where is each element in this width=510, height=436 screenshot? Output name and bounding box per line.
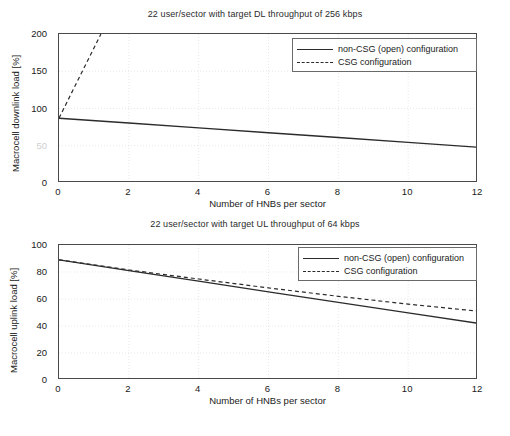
- x-tick-label: 2: [125, 186, 130, 197]
- legend-line-solid-icon: [303, 253, 339, 262]
- figure-two-panel-chart: 22 user/sector with target DL throughput…: [0, 0, 510, 436]
- y-tick-label: 150: [31, 65, 52, 76]
- x-tick-label: 0: [55, 186, 60, 197]
- x-tick-label: 4: [195, 186, 200, 197]
- x-tick-label: 12: [472, 383, 483, 394]
- x-tick-label: 0: [55, 383, 60, 394]
- chart-title-downlink: 22 user/sector with target DL throughput…: [0, 9, 510, 19]
- panel-downlink: 22 user/sector with target DL throughput…: [0, 0, 510, 218]
- x-tick-label: 6: [265, 383, 270, 394]
- panel-uplink: 22 user/sector with target UL throughput…: [0, 215, 510, 433]
- y-tick-label: 80: [36, 266, 52, 277]
- y-tick-label: 0: [42, 374, 52, 385]
- y-tick-label: 100: [31, 102, 52, 113]
- x-tick-label: 10: [402, 186, 413, 197]
- chart-title-uplink: 22 user/sector with target UL throughput…: [0, 219, 510, 229]
- y-tick-label: 200: [31, 28, 52, 39]
- legend-label-non-csg: non-CSG (open) configuration: [344, 253, 464, 263]
- legend-item-csg: CSG configuration: [297, 55, 471, 68]
- y-axis-ticks-downlink: 050100150200: [0, 33, 52, 182]
- legend-item-csg: CSG configuration: [303, 264, 471, 277]
- x-tick-label: 2: [125, 383, 130, 394]
- y-tick-label: 0: [42, 177, 52, 188]
- y-tick-label: 50: [36, 139, 52, 150]
- y-tick-label: 100: [31, 239, 52, 250]
- legend-uplink: non-CSG (open) configuration CSG configu…: [298, 247, 477, 281]
- y-axis-ticks-uplink: 020406080100: [0, 244, 52, 379]
- x-axis-label-downlink: Number of HNBs per sector: [58, 198, 477, 209]
- x-tick-label: 12: [472, 186, 483, 197]
- legend-label-non-csg: non-CSG (open) configuration: [338, 44, 458, 54]
- x-tick-label: 8: [335, 186, 340, 197]
- x-tick-label: 6: [265, 186, 270, 197]
- y-tick-label: 60: [36, 293, 52, 304]
- legend-line-dashed-icon: [297, 57, 333, 66]
- x-tick-label: 8: [335, 383, 340, 394]
- legend-item-non-csg: non-CSG (open) configuration: [303, 251, 471, 264]
- legend-downlink: non-CSG (open) configuration CSG configu…: [292, 38, 477, 72]
- legend-line-dashed-icon: [303, 266, 339, 275]
- x-axis-label-uplink: Number of HNBs per sector: [58, 395, 477, 406]
- x-tick-label: 10: [402, 383, 413, 394]
- x-tick-label: 4: [195, 383, 200, 394]
- legend-item-non-csg: non-CSG (open) configuration: [297, 42, 471, 55]
- legend-label-csg: CSG configuration: [338, 57, 412, 67]
- legend-label-csg: CSG configuration: [344, 266, 418, 276]
- y-tick-label: 20: [36, 347, 52, 358]
- y-tick-label: 40: [36, 320, 52, 331]
- legend-line-solid-icon: [297, 44, 333, 53]
